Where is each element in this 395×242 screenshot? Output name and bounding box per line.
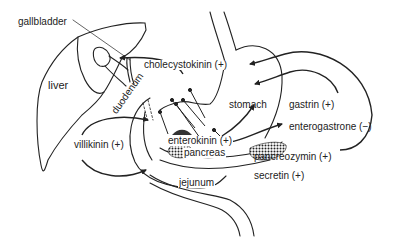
stomach-outline — [236, 46, 282, 138]
label-enterokinin: enterokinin (+) — [167, 136, 233, 146]
label-pancreozymin: pancreozymin (+) — [254, 152, 332, 162]
gallbladder-outline — [93, 47, 110, 66]
label-pancreas: pancreas — [183, 148, 226, 158]
label-secretin: secretin (+) — [254, 171, 304, 181]
label-enterogastrone: enterogastrone (−) — [289, 122, 372, 132]
label-jejunum: jejunum — [178, 178, 215, 188]
label-liver: liver — [48, 80, 68, 91]
label-gastrin: gastrin (+) — [289, 100, 334, 110]
gi-hormone-diagram: gallbladder liver duodenum cholecystokin… — [0, 0, 395, 242]
label-cholecystokinin: cholecystokinin (+) — [143, 60, 228, 70]
label-villikinin: villikinin (+) — [73, 140, 125, 150]
label-stomach: stomach — [229, 100, 267, 110]
label-gallbladder: gallbladder — [18, 17, 67, 27]
